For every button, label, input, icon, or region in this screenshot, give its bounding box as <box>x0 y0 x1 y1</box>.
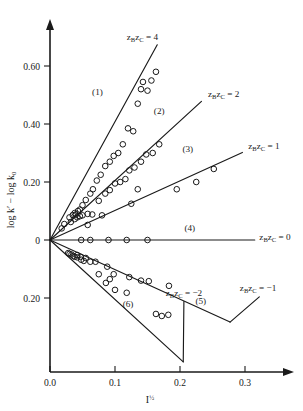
data-point <box>107 159 113 165</box>
x-tick-label-0: 0.0 <box>44 377 56 388</box>
y-tick-labels: 0.60 0.40 0.20 0 0.20 <box>23 61 40 304</box>
y-axis-title-part2: log k <box>5 175 16 195</box>
series-group-5 <box>50 240 230 322</box>
x-ticks <box>50 366 245 372</box>
trend-line-1 <box>50 45 157 240</box>
x-tick-label-3: 0.3 <box>239 377 251 388</box>
x-tick-labels: 0.0 0.1 0.2 0.3 <box>44 377 251 388</box>
data-point <box>80 202 86 208</box>
data-point <box>120 142 126 148</box>
curve-number-label: (1) <box>92 87 103 97</box>
data-point <box>211 166 217 172</box>
y-tick-label-4: 0.20 <box>23 293 40 304</box>
data-point <box>156 142 162 148</box>
svg-text:log k′ − log k0: log k′ − log k0 <box>5 171 17 228</box>
z-label-leader-6 <box>183 301 184 361</box>
data-point <box>112 287 118 293</box>
data-point <box>140 79 146 85</box>
data-point <box>90 186 96 192</box>
data-point <box>166 312 172 318</box>
y-axis-title-part1: log k′ <box>5 203 16 228</box>
data-point <box>96 271 102 277</box>
data-point <box>107 276 113 282</box>
y-tick-label-3: 0 <box>35 235 40 246</box>
series-group-3 <box>50 152 242 240</box>
data-point <box>138 159 144 165</box>
y-axis-title: log k′ − log k0 <box>5 171 17 228</box>
trend-line-3 <box>50 152 242 240</box>
data-point <box>149 78 155 84</box>
z-label-4: zBzC = 0 <box>259 232 291 243</box>
data-point <box>135 186 141 192</box>
trend-line-2 <box>50 101 201 240</box>
data-point <box>117 179 123 185</box>
curve-number-label: (2) <box>154 106 165 116</box>
series-group-4 <box>50 237 255 243</box>
data-point <box>115 150 121 156</box>
z-label-6: zBzC = −2 <box>166 288 203 299</box>
curve-number-label: (6) <box>123 299 134 309</box>
z-label-5: zBzC = −1 <box>240 283 277 294</box>
curve-number-label: (3) <box>182 144 193 154</box>
y-axis-title-subscript: 0 <box>10 171 17 175</box>
data-point <box>174 186 180 192</box>
data-point <box>135 101 141 107</box>
data-point <box>127 168 133 174</box>
x-tick-label-1: 0.1 <box>109 377 121 388</box>
curve-number-label: (4) <box>184 223 195 233</box>
y-tick-label-1: 0.40 <box>23 119 40 130</box>
data-point <box>145 88 151 94</box>
y-axis-title-dash: − <box>5 195 16 203</box>
data-point <box>107 187 113 193</box>
data-point <box>130 128 136 134</box>
data-point <box>83 197 89 203</box>
x-axis-title: I½ <box>146 394 154 405</box>
series-group-1 <box>50 45 159 240</box>
data-point <box>125 126 131 132</box>
data-point <box>159 313 165 319</box>
data-point <box>94 178 100 184</box>
y-ticks <box>44 66 50 298</box>
trend-line-6 <box>50 240 183 362</box>
data-point <box>193 179 199 185</box>
data-point <box>132 165 138 171</box>
z-label-3: zBzC = 1 <box>248 141 280 152</box>
annotation-layer: (1)(2)(3)(4)(5)(6) <box>92 87 206 309</box>
y-tick-label-0: 0.60 <box>23 61 40 72</box>
curve-number-label: (5) <box>195 296 206 306</box>
z-label-1: zBzC = 4 <box>127 32 159 43</box>
data-point <box>146 278 152 284</box>
series-group-2 <box>50 101 201 240</box>
y-axis <box>46 19 54 372</box>
data-point <box>111 271 117 277</box>
x-axis <box>50 368 294 376</box>
series-group-6 <box>50 240 183 362</box>
chart-figure: 0.60 0.40 0.20 0 0.20 0.0 0.1 0.2 0.3 I½… <box>0 0 303 411</box>
svg-text:I½: I½ <box>146 394 154 405</box>
data-point <box>98 172 104 178</box>
data-point <box>153 69 159 75</box>
data-point <box>96 198 102 204</box>
data-point <box>153 311 159 317</box>
z-label-2: zBzC = 2 <box>208 89 240 100</box>
z-label-leader-5 <box>230 297 259 322</box>
y-tick-label-2: 0.20 <box>23 177 40 188</box>
data-point <box>123 176 129 182</box>
chart-svg: 0.60 0.40 0.20 0 0.20 0.0 0.1 0.2 0.3 I½… <box>0 0 303 411</box>
x-tick-label-2: 0.2 <box>174 377 186 388</box>
x-axis-arrow <box>283 368 294 376</box>
data-point <box>138 86 144 92</box>
data-point <box>62 221 68 227</box>
y-axis-arrow <box>46 19 54 30</box>
x-axis-title-exponent: ½ <box>149 394 154 401</box>
data-point <box>102 163 108 169</box>
data-point <box>150 150 156 156</box>
data-point <box>124 290 130 296</box>
